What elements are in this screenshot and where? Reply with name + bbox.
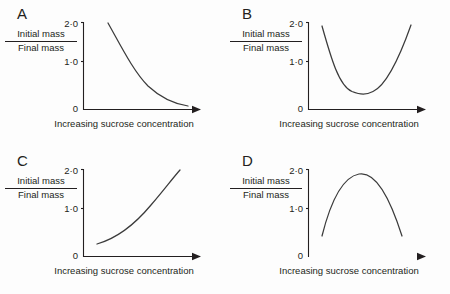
panel-a: A Initial mass Final mass 2·0 1·0 0 Incr… — [0, 0, 225, 147]
panel-b: B Initial mass Final mass 2·0 1·0 0 Incr… — [225, 0, 450, 147]
axes-d — [306, 169, 426, 260]
x-axis-caption-a: Increasing sucrose concentration — [34, 118, 214, 129]
axes-c — [81, 169, 201, 260]
curve-d — [322, 174, 402, 236]
curve-a — [108, 23, 188, 106]
curve-b — [322, 25, 411, 94]
axes-b — [306, 22, 426, 113]
panel-c: C Initial mass Final mass 2·0 1·0 0 Incr… — [0, 147, 225, 294]
figure-root: A Initial mass Final mass 2·0 1·0 0 Incr… — [0, 0, 450, 294]
axes-a — [81, 22, 201, 113]
x-axis-caption-b: Increasing sucrose concentration — [259, 118, 439, 129]
x-axis-arrowhead-d — [417, 253, 426, 260]
x-axis-caption-d: Increasing sucrose concentration — [259, 265, 439, 276]
curve-c — [97, 170, 180, 244]
x-axis-arrowhead-a — [192, 106, 201, 113]
x-axis-arrowhead-c — [192, 253, 201, 260]
x-axis-caption-c: Increasing sucrose concentration — [34, 265, 214, 276]
panel-d: D Initial mass Final mass 2·0 1·0 0 — [225, 147, 450, 294]
x-axis-arrowhead-b — [417, 106, 426, 113]
